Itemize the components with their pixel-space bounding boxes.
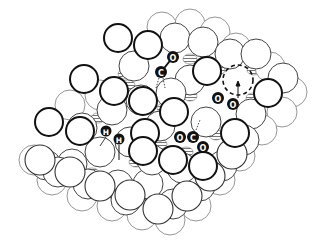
adatom [100, 77, 128, 105]
oxygen-label: O [230, 101, 237, 110]
adatom [129, 87, 157, 115]
oxygen-label: O [177, 134, 184, 143]
adatom [221, 119, 249, 147]
adatom [254, 79, 282, 107]
adatom [104, 24, 132, 52]
adatom [189, 152, 217, 180]
adatom [134, 31, 162, 59]
oxygen-label: O [170, 54, 177, 63]
hydrogen-label: H [116, 136, 122, 145]
adatom [193, 57, 221, 85]
hydrogen-label: H [103, 128, 109, 137]
adatom [160, 98, 188, 126]
adatom [35, 108, 63, 136]
adatom [159, 146, 187, 174]
oxygen-label: O [200, 144, 207, 153]
adatom [70, 65, 98, 93]
carbon-label: C [158, 69, 164, 78]
adatom [129, 137, 157, 165]
o2-dissociated: O O [212, 92, 239, 110]
carbon-label: C [190, 134, 196, 143]
oxygen-label: O [215, 95, 222, 104]
adatom [66, 117, 94, 145]
surface-diagram: C O O O O C O H H [0, 0, 312, 250]
